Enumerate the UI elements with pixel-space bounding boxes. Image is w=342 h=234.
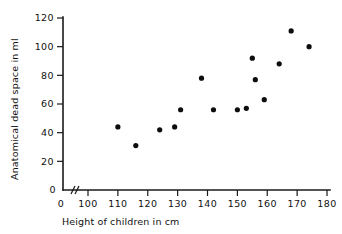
y-axis-group: 20406080100120: [35, 12, 63, 190]
x-axis-group: 100110120130140150160170180 0 0: [50, 184, 337, 209]
data-point: [172, 124, 177, 129]
data-point: [250, 56, 255, 61]
x-axis-tick-labels: 100110120130140150160170180: [78, 198, 336, 209]
y-tick-label-60: 60: [41, 98, 54, 109]
data-point: [115, 124, 120, 129]
x-tick-label-160: 160: [258, 198, 277, 209]
data-point-layer: [115, 28, 311, 148]
y-tick-label-100: 100: [35, 41, 54, 52]
chart-canvas: 20406080100120 1001101201301401501601701…: [0, 0, 342, 234]
data-point: [262, 97, 267, 102]
x-tick-label-110: 110: [108, 198, 127, 209]
y-tick-label-20: 20: [41, 156, 54, 167]
y-tick-label-80: 80: [41, 70, 54, 81]
data-point: [199, 76, 204, 81]
data-point: [235, 107, 240, 112]
data-point: [178, 107, 183, 112]
data-point: [133, 143, 138, 148]
x-origin-label: 0: [58, 198, 64, 209]
x-tick-label-180: 180: [317, 198, 336, 209]
x-axis-ticks: [88, 190, 327, 196]
data-point: [289, 28, 294, 33]
y-axis-tick-labels: 20406080100120: [35, 12, 54, 166]
y-origin-label: 0: [50, 184, 56, 195]
data-point: [244, 106, 249, 111]
scatter-chart-figure: 20406080100120 1001101201301401501601701…: [0, 0, 342, 234]
x-tick-label-140: 140: [198, 198, 217, 209]
x-tick-label-170: 170: [287, 198, 306, 209]
y-axis-ticks: [57, 18, 63, 161]
x-tick-label-120: 120: [138, 198, 157, 209]
x-tick-label-100: 100: [78, 198, 97, 209]
data-point: [277, 61, 282, 66]
x-tick-label-130: 130: [168, 198, 187, 209]
data-point: [157, 127, 162, 132]
y-axis-title: Anatomical dead space in ml: [9, 38, 20, 180]
data-point: [211, 107, 216, 112]
x-axis-title: Height of children in cm: [62, 216, 180, 227]
data-point: [306, 44, 311, 49]
data-point: [253, 77, 258, 82]
x-tick-label-150: 150: [228, 198, 247, 209]
y-tick-label-120: 120: [35, 12, 54, 23]
y-tick-label-40: 40: [41, 127, 54, 138]
